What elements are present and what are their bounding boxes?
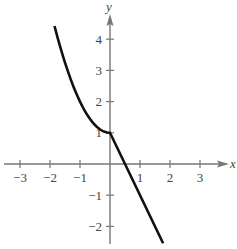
x-tick-label: 3 xyxy=(197,170,204,185)
x-tick-label: −1 xyxy=(73,170,87,185)
y-tick-label: 2 xyxy=(96,94,103,109)
y-tick-label: 4 xyxy=(96,32,103,47)
curve xyxy=(55,26,164,243)
y-tick-label: −2 xyxy=(88,219,102,234)
y-tick-label: 3 xyxy=(96,63,103,78)
y-tick-label: −1 xyxy=(88,188,102,203)
x-axis-label: x xyxy=(229,156,236,171)
y-axis-label: y xyxy=(104,0,112,14)
function-curve xyxy=(55,26,164,243)
x-tick-label: −2 xyxy=(43,170,57,185)
axes xyxy=(4,14,229,244)
function-graph: −3−2−1123−2−11234 x y xyxy=(0,0,237,249)
x-tick-label: 1 xyxy=(137,170,144,185)
x-tick-label: −3 xyxy=(13,170,27,185)
x-tick-label: 2 xyxy=(167,170,174,185)
